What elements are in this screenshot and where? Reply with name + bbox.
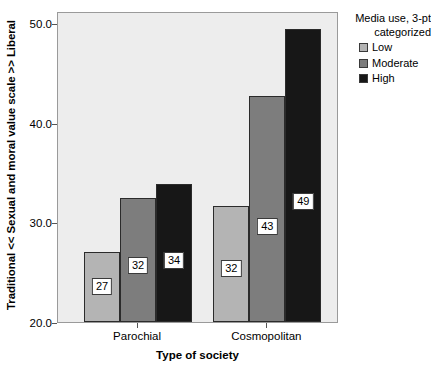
legend-item-label: Moderate: [372, 57, 418, 71]
plot-area: 273234324349: [57, 12, 338, 323]
legend-item[interactable]: Moderate: [345, 57, 431, 71]
bar-value-label: 43: [257, 218, 277, 235]
bar: 32: [213, 206, 249, 322]
x-axis-title: Type of society: [57, 349, 338, 361]
legend-swatch-icon: [359, 43, 368, 52]
legend-swatch-icon: [359, 74, 368, 83]
y-axis-ticklabel: 50.0: [20, 18, 52, 30]
y-axis-title: Traditional << Sexual and moral value sc…: [0, 0, 22, 330]
bar: 27: [84, 252, 120, 322]
y-axis-ticklabels: 20.030.040.050.0: [20, 0, 52, 366]
bar-value-label: 32: [128, 257, 148, 274]
legend-swatch-icon: [359, 59, 368, 68]
bar: 43: [249, 96, 285, 322]
legend-item-label: High: [372, 72, 395, 86]
legend-title-line1: Media use, 3-pt: [345, 12, 431, 26]
y-axis-ticklabel: 20.0: [20, 317, 52, 329]
chart-legend: Media use, 3-pt categorized LowModerateH…: [345, 12, 431, 86]
y-axis-tickmark: [52, 323, 57, 324]
bar-value-label: 49: [293, 193, 313, 210]
bar-value-label: 34: [164, 252, 184, 269]
legend-title-line2: categorized: [345, 26, 431, 40]
x-axis-tickmark: [266, 323, 267, 328]
bar-value-label: 27: [92, 278, 112, 295]
legend-item[interactable]: Low: [345, 41, 431, 55]
bar: 32: [120, 198, 156, 322]
legend-item[interactable]: High: [345, 72, 431, 86]
bar-chart: Traditional << Sexual and moral value sc…: [0, 0, 431, 366]
y-axis-ticklabel: 40.0: [20, 118, 52, 130]
bar: 49: [285, 29, 321, 322]
legend-item-label: Low: [372, 41, 392, 55]
y-axis-title-text: Traditional << Sexual and moral value sc…: [5, 20, 17, 310]
x-axis-ticklabel: Cosmopolitan: [231, 330, 301, 343]
bar-value-label: 32: [221, 260, 241, 277]
x-axis-ticklabel: Parochial: [113, 330, 161, 343]
y-axis-ticklabel: 30.0: [20, 217, 52, 229]
x-axis-tickmark: [137, 323, 138, 328]
bar: 34: [156, 184, 192, 322]
